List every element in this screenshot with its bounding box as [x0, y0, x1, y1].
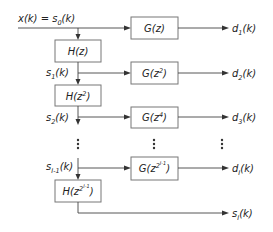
arrow-icon	[76, 79, 81, 85]
g-block-3-label: G(z4)	[142, 111, 167, 123]
g-block-4-label: G(z2I-1)	[139, 160, 170, 174]
d3-label: d3(k)	[232, 112, 256, 126]
arrow-icon	[124, 166, 131, 171]
arrow-icon	[222, 115, 229, 120]
d1-label: d1(k)	[232, 23, 256, 37]
arrow-icon	[222, 26, 229, 31]
arrow-icon	[124, 71, 131, 76]
arrow-icon	[76, 34, 81, 40]
h-block-2-label: H(z2)	[66, 90, 91, 102]
arrow-icon	[124, 26, 131, 31]
arrow-icon	[76, 174, 81, 180]
h-block-1-label: H(z)	[68, 46, 89, 57]
input-label: x(k) = s0(k)	[17, 13, 75, 27]
filter-bank-diagram: x(k) = s0(k) H(z) s1(k) H(z2) s2(k) sI-1…	[0, 0, 273, 232]
ellipsis-mid	[153, 139, 155, 149]
arrow-icon	[76, 119, 81, 125]
arrow-icon	[124, 115, 131, 120]
s2-label: s2(k)	[46, 112, 69, 126]
arrow-icon	[222, 71, 229, 76]
s-i-output-label: sI(k)	[232, 208, 253, 222]
g-block-1-label: G(z)	[144, 23, 165, 34]
arrow-icon	[222, 166, 229, 171]
h-block-3-label: H(z2I-1)	[62, 183, 93, 197]
ellipsis-right	[221, 139, 223, 149]
d2-label: d2(k)	[232, 68, 256, 82]
d-i-label: dI(k)	[232, 163, 254, 177]
s1-label: s1(k)	[46, 67, 69, 81]
ellipsis-left	[77, 139, 79, 149]
g-block-2-label: G(z2)	[142, 67, 167, 79]
s-i-minus-1-label: sI-1(k)	[46, 161, 73, 175]
arrow-icon	[222, 211, 229, 216]
